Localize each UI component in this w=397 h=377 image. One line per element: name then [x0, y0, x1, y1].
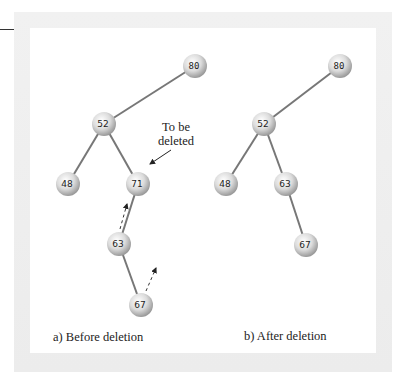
node-label: 71: [131, 179, 142, 189]
tree-node-80: 80: [328, 54, 352, 78]
bst-deletion-diagram: 805248716367 8052486367 To be deleted a)…: [0, 0, 397, 377]
edges-after: [226, 66, 340, 245]
edge-80-52: [104, 66, 195, 124]
move-up-arrow-67: [146, 268, 156, 291]
node-label: 48: [219, 179, 231, 189]
annotation-line1: To be: [162, 120, 190, 134]
node-label: 52: [257, 119, 268, 129]
tree-node-52: 52: [252, 112, 276, 136]
tree-node-48: 48: [214, 172, 238, 196]
node-label: 52: [97, 119, 108, 129]
tree-node-67: 67: [129, 293, 153, 317]
node-label: 80: [334, 61, 345, 71]
annotation-line2: deleted: [158, 134, 195, 148]
tree-node-63: 63: [274, 172, 298, 196]
node-label: 63: [112, 239, 123, 249]
tree-node-80: 80: [183, 54, 207, 78]
node-label: 63: [279, 179, 290, 189]
tree-node-63: 63: [107, 232, 131, 256]
node-label: 67: [299, 240, 310, 250]
tree-node-71: 71: [126, 172, 150, 196]
deletion-pointer-arrow: [150, 150, 171, 164]
caption-after: b) After deletion: [244, 329, 327, 343]
node-label: 67: [134, 300, 145, 310]
tree-node-67: 67: [294, 233, 318, 257]
caption-before: a) Before deletion: [53, 330, 144, 344]
tree-node-52: 52: [92, 112, 116, 136]
tree-node-48: 48: [56, 172, 80, 196]
nodes-after: 8052486367: [214, 54, 352, 257]
edge-80-52: [264, 66, 340, 124]
node-label: 80: [189, 61, 200, 71]
node-label: 48: [61, 179, 73, 189]
